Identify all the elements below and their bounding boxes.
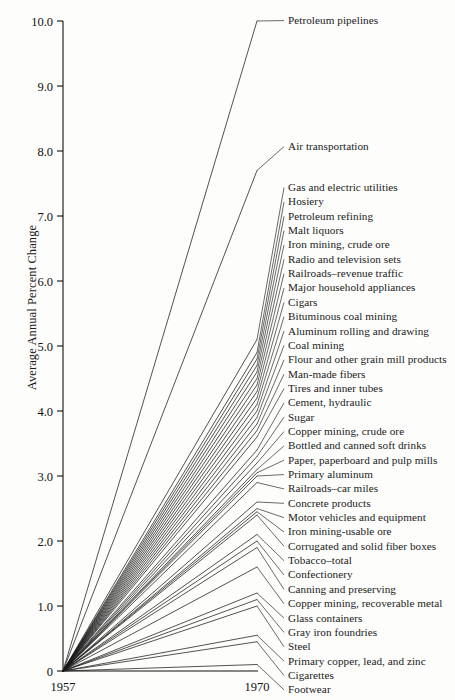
series-label: Corrugated and solid fiber boxes (288, 541, 436, 552)
series-label: Railroads–car miles (288, 483, 378, 494)
series-label: Paper, paperboard and pulp mills (288, 455, 437, 466)
series-label: Glass containers (288, 613, 362, 624)
series-label: Steel (288, 641, 311, 652)
series-label: Gray iron foundries (288, 627, 377, 638)
series-label: Tobacco–total (288, 555, 352, 566)
series-label: Sugar (288, 412, 314, 423)
series-label: Cigars (288, 297, 318, 308)
series-label: Bottled and canned soft drinks (288, 440, 426, 451)
series-label: Air transportation (288, 141, 369, 152)
series-label: Gas and electric utilities (288, 182, 398, 193)
series-label: Iron mining-usable ore (288, 526, 392, 537)
series-label: Copper mining, recoverable metal (288, 598, 442, 609)
slopegraph-figure: 01.02.03.04.05.06.07.08.09.010.019571970… (0, 0, 455, 700)
series-label: Primary aluminum (288, 469, 373, 480)
series-label: Radio and television sets (288, 254, 401, 265)
series-label: Footwear (288, 684, 331, 695)
series-label: Confectionery (288, 569, 353, 580)
series-label: Malt liquors (288, 225, 344, 236)
series-label: Canning and preserving (288, 584, 396, 595)
series-label: Tires and inner tubes (288, 383, 383, 394)
series-label: Bituminous coal mining (288, 311, 397, 322)
series-label: Man-made fibers (288, 369, 365, 380)
series-label: Railroads–revenue traffic (288, 268, 403, 279)
series-label: Aluminum rolling and drawing (288, 326, 429, 337)
series-label: Primary copper, lead, and zinc (288, 656, 426, 667)
series-label-layer: Petroleum pipelinesAir transportationGas… (0, 0, 455, 700)
series-label: Petroleum pipelines (288, 15, 378, 26)
series-label: Cement, hydraulic (288, 397, 372, 408)
series-label: Motor vehicles and equipment (288, 512, 426, 523)
series-label: Cigarettes (288, 670, 334, 681)
series-label: Major household appliances (288, 282, 415, 293)
series-label: Iron mining, crude ore (288, 239, 390, 250)
series-label: Flour and other grain mill products (288, 354, 447, 365)
series-label: Petroleum refining (288, 211, 373, 222)
series-label: Hosiery (288, 196, 324, 207)
series-label: Coal mining (288, 340, 344, 351)
series-label: Copper mining, crude ore (288, 426, 404, 437)
series-label: Concrete products (288, 498, 371, 509)
